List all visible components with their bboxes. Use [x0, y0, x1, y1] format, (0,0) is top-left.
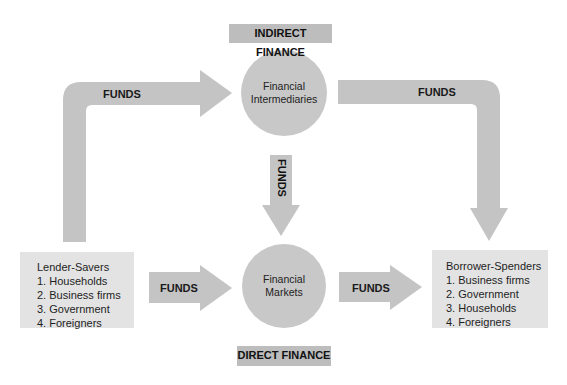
markets-line2: Markets — [242, 286, 326, 299]
arrow-intermediaries-to-borrowers — [338, 80, 508, 241]
arrow-lenders-to-intermediaries — [63, 70, 232, 242]
intermediaries-line1: Financial — [241, 80, 327, 93]
lender-item: 3. Government — [37, 302, 134, 316]
borrower-item: 2. Government — [446, 287, 548, 301]
borrower-spenders-box: Borrower-Spenders 1. Business firms 2. G… — [432, 250, 548, 328]
borrower-item: 1. Business firms — [446, 273, 548, 287]
borrower-item: 3. Households — [446, 301, 548, 315]
funds-label-lenders-to-markets: FUNDS — [160, 282, 198, 294]
borrower-spenders-title: Borrower-Spenders — [446, 259, 548, 273]
lender-item: 2. Business firms — [37, 288, 134, 302]
direct-finance-label: DIRECT FINANCE — [237, 346, 331, 366]
lender-item: 1. Households — [37, 274, 134, 288]
markets-line1: Financial — [242, 273, 326, 286]
lender-savers-box: Lender-Savers 1. Households 2. Business … — [20, 252, 134, 328]
lender-item: 4. Foreigners — [37, 316, 134, 330]
indirect-finance-label: INDIRECT FINANCE — [229, 24, 332, 43]
financial-intermediaries-text: Financial Intermediaries — [241, 80, 327, 106]
intermediaries-line2: Intermediaries — [241, 93, 327, 106]
funds-label-markets-to-borrowers: FUNDS — [352, 282, 390, 294]
lender-savers-title: Lender-Savers — [37, 260, 134, 274]
financial-markets-text: Financial Markets — [242, 273, 326, 299]
funds-label-lenders-to-intermediaries: FUNDS — [103, 88, 141, 100]
funds-label-intermediaries-to-markets: FUNDS — [276, 158, 288, 198]
funds-label-intermediaries-to-borrowers: FUNDS — [418, 86, 456, 98]
borrower-item: 4. Foreigners — [446, 315, 548, 329]
